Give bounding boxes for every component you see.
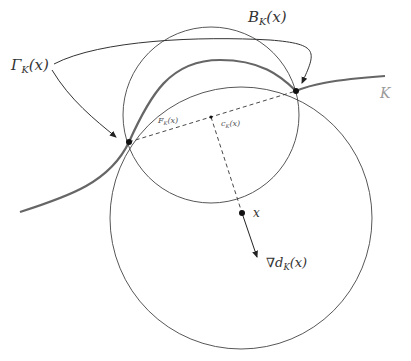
label-x: x	[253, 207, 260, 219]
ball-bk-circle	[123, 27, 299, 203]
diagram-canvas	[0, 0, 411, 361]
right-contact-point	[293, 88, 299, 94]
gamma-arrow-right	[54, 39, 311, 83]
label-gradient-main: ∇d	[266, 255, 283, 270]
label-center: cK(x)	[221, 120, 240, 129]
center-point	[209, 115, 212, 118]
center-to-x-line	[211, 117, 242, 213]
label-ball-arg: (x)	[266, 8, 286, 26]
label-x-main: x	[253, 206, 260, 220]
left-contact-point	[126, 139, 132, 145]
label-k-main: K	[380, 85, 390, 101]
large-circle	[110, 87, 372, 349]
label-ball-main: B	[248, 8, 259, 26]
label-gradient-arg: (x)	[290, 255, 307, 270]
label-gamma: ΓK(x)	[11, 58, 49, 75]
label-footprint: FK(x)	[158, 117, 178, 126]
gamma-arrow-left	[52, 70, 116, 137]
label-ball: BK(x)	[248, 10, 287, 27]
label-footprint-arg: (x)	[167, 116, 178, 125]
label-gamma-sub: K	[21, 64, 28, 75]
point-x	[239, 210, 245, 216]
label-gamma-main: Γ	[11, 56, 21, 74]
label-gradient: ∇dK(x)	[266, 256, 307, 271]
label-center-arg: (x)	[229, 119, 240, 128]
curve-k	[20, 60, 385, 212]
label-k: K	[380, 86, 390, 100]
label-gamma-arg: (x)	[29, 56, 49, 74]
